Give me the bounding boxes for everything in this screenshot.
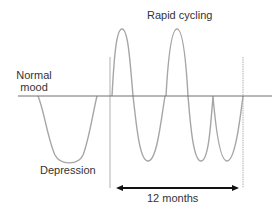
depression-label: Depression <box>40 164 96 176</box>
duration-label: 12 months <box>147 192 198 204</box>
normal-mood-label-line1: Normal <box>14 69 54 81</box>
normal-mood-label-line2: mood <box>14 81 54 93</box>
arrow-right-head-icon <box>232 185 239 191</box>
arrow-left-head-icon <box>116 185 123 191</box>
normal-mood-label: Normal mood <box>14 69 54 93</box>
rapid-cycling-label: Rapid cycling <box>147 9 212 21</box>
mood-cycle-diagram <box>0 0 279 209</box>
